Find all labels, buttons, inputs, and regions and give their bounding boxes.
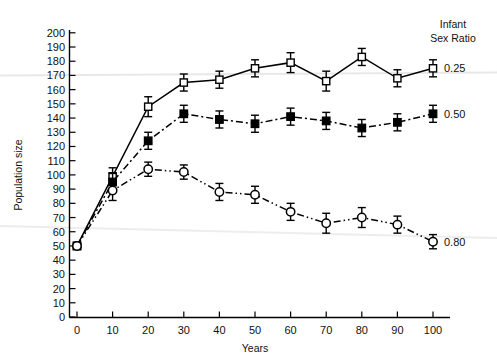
data-point-marker xyxy=(393,220,401,228)
y-tick-label: 170 xyxy=(47,69,65,81)
data-point-marker xyxy=(394,75,401,82)
legend-title-line2: Sex Ratio xyxy=(430,32,476,44)
x-tick-label: 40 xyxy=(213,324,225,336)
data-point-marker xyxy=(144,137,152,145)
data-point-marker xyxy=(358,53,365,60)
data-point-marker xyxy=(73,242,81,250)
series-0-50 xyxy=(73,105,437,249)
data-series-layer xyxy=(73,48,437,250)
y-tick-label: 160 xyxy=(47,84,65,96)
x-axis-label: Years xyxy=(242,342,268,354)
data-point-marker xyxy=(358,213,366,221)
y-tick-label: 110 xyxy=(47,155,65,167)
y-tick-label: 130 xyxy=(47,126,65,138)
y-tick-label: 30 xyxy=(53,268,65,280)
x-tick-label: 50 xyxy=(249,324,261,336)
x-tick-label: 10 xyxy=(106,324,118,336)
data-point-marker xyxy=(286,208,294,216)
data-point-marker xyxy=(180,110,188,118)
y-tick-label: 150 xyxy=(47,98,65,110)
background-bands xyxy=(0,73,497,239)
y-tick-label: 60 xyxy=(53,226,65,238)
x-tick-label: 90 xyxy=(391,324,403,336)
x-tick-label: 80 xyxy=(356,324,368,336)
y-tick-label: 120 xyxy=(47,140,65,152)
series-0-25 xyxy=(73,48,437,249)
data-point-marker xyxy=(429,110,437,118)
series-value-label-0-50: 0.50 xyxy=(444,108,465,120)
x-tick-label: 100 xyxy=(424,324,442,336)
data-point-marker xyxy=(251,120,259,128)
x-tick-label: 20 xyxy=(142,324,154,336)
data-point-marker xyxy=(144,165,152,173)
data-point-marker xyxy=(251,191,259,199)
y-tick-label: 20 xyxy=(53,283,65,295)
series-0-80 xyxy=(73,162,437,250)
y-tick-label: 180 xyxy=(47,55,65,67)
data-point-marker xyxy=(287,113,295,121)
series-value-label-0-80: 0.80 xyxy=(444,236,465,248)
data-point-marker xyxy=(145,103,152,110)
data-point-marker xyxy=(429,237,437,245)
x-tick-label: 60 xyxy=(284,324,296,336)
y-tick-label: 70 xyxy=(53,212,65,224)
data-point-marker xyxy=(216,76,223,83)
y-tick-label: 140 xyxy=(47,112,65,124)
y-tick-label: 90 xyxy=(53,183,65,195)
y-tick-label: 190 xyxy=(47,41,65,53)
y-axis-label: Population size xyxy=(12,139,24,210)
data-point-marker xyxy=(180,79,187,86)
population-line-chart: 0102030405060708090100110120130140150160… xyxy=(0,0,497,357)
x-tick-label: 30 xyxy=(178,324,190,336)
data-point-marker xyxy=(215,188,223,196)
y-tick-label: 80 xyxy=(53,197,65,209)
data-point-marker xyxy=(216,116,224,124)
data-point-marker xyxy=(323,78,330,85)
series-labels: 0.250.500.80 xyxy=(444,62,465,247)
data-point-marker xyxy=(287,59,294,66)
x-tick-label: 0 xyxy=(74,324,80,336)
data-point-marker xyxy=(180,168,188,176)
y-tick-label: 0 xyxy=(59,311,65,323)
y-axis-ticks: 0102030405060708090100110120130140150160… xyxy=(47,27,76,323)
legend-title-line1: Infant xyxy=(440,18,466,30)
data-point-marker xyxy=(251,65,258,72)
data-point-marker xyxy=(322,219,330,227)
data-point-marker xyxy=(358,124,366,132)
x-axis-ticks: 0102030405060708090100 xyxy=(74,312,442,337)
data-point-marker xyxy=(108,186,116,194)
chart-figure: 0102030405060708090100110120130140150160… xyxy=(0,0,497,357)
x-tick-label: 70 xyxy=(320,324,332,336)
series-value-label-0-25: 0.25 xyxy=(444,62,465,74)
data-point-marker xyxy=(322,117,330,125)
y-tick-label: 10 xyxy=(53,297,65,309)
y-tick-label: 200 xyxy=(47,27,65,39)
y-tick-label: 40 xyxy=(53,254,65,266)
y-tick-label: 50 xyxy=(53,240,65,252)
data-point-marker xyxy=(394,119,402,127)
data-point-marker xyxy=(429,65,436,72)
series-line xyxy=(77,57,433,246)
y-tick-label: 100 xyxy=(47,169,65,181)
